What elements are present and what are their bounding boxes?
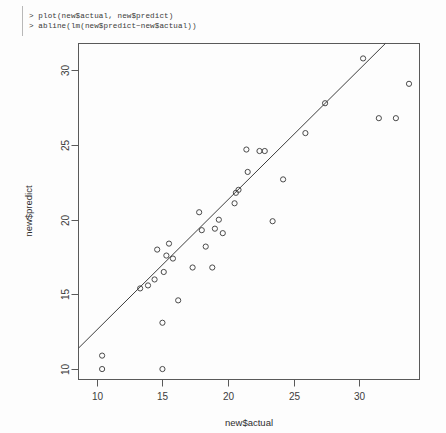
data-point <box>393 116 398 121</box>
console-left-rule <box>22 6 23 36</box>
data-point <box>232 201 237 206</box>
data-point <box>210 265 215 270</box>
data-point <box>160 320 165 325</box>
x-axis-title: new$actual <box>225 417 273 428</box>
data-point <box>152 277 157 282</box>
data-point <box>212 226 217 231</box>
x-axis-ticks <box>98 380 360 387</box>
y-tick-label: 15 <box>60 289 71 301</box>
data-point <box>281 177 286 182</box>
data-point <box>100 366 105 371</box>
data-point <box>145 283 150 288</box>
data-point <box>197 210 202 215</box>
data-point <box>406 81 411 86</box>
y-axis-ticks <box>72 71 79 370</box>
y-axis-tick-labels: 1015202530 <box>60 65 71 376</box>
data-point <box>176 298 181 303</box>
data-point <box>166 241 171 246</box>
x-tick-label: 15 <box>157 391 169 402</box>
console-command-plot: > plot(new$actual, new$predict) <box>29 11 173 21</box>
x-axis-tick-labels: 1015202530 <box>92 391 366 402</box>
plot-area: 1015202530 1015202530 new$actual new$pre… <box>0 38 446 433</box>
x-tick-label: 10 <box>92 391 104 402</box>
console-command-abline: > abline(lm(new$predict~new$actual)) <box>29 21 197 31</box>
y-tick-label: 10 <box>60 364 71 376</box>
r-console-plot-window: > plot(new$actual, new$predict) > abline… <box>0 0 446 433</box>
scatter-points <box>100 56 412 372</box>
regression-line <box>79 44 386 349</box>
data-point <box>303 131 308 136</box>
y-tick-label: 25 <box>60 140 71 152</box>
data-point <box>161 269 166 274</box>
data-point <box>244 147 249 152</box>
data-point <box>160 366 165 371</box>
data-point <box>190 265 195 270</box>
data-point <box>203 244 208 249</box>
data-point <box>361 56 366 61</box>
x-tick-label: 25 <box>289 391 301 402</box>
y-tick-label: 30 <box>60 65 71 77</box>
plot-frame <box>79 44 420 380</box>
y-tick-label: 20 <box>60 215 71 227</box>
data-point <box>270 219 275 224</box>
data-point <box>245 169 250 174</box>
console-transcript: > plot(new$actual, new$predict) > abline… <box>0 0 446 40</box>
data-point <box>216 217 221 222</box>
data-point <box>155 247 160 252</box>
data-point <box>262 148 267 153</box>
data-point <box>199 228 204 233</box>
data-point <box>376 116 381 121</box>
data-point <box>257 148 262 153</box>
x-tick-label: 20 <box>223 391 235 402</box>
scatter-plot-svg: 1015202530 1015202530 new$actual new$pre… <box>0 38 446 433</box>
y-axis-title: new$predict <box>23 185 34 237</box>
data-point <box>164 253 169 258</box>
data-point <box>220 231 225 236</box>
x-tick-label: 30 <box>354 391 366 402</box>
data-point <box>100 353 105 358</box>
